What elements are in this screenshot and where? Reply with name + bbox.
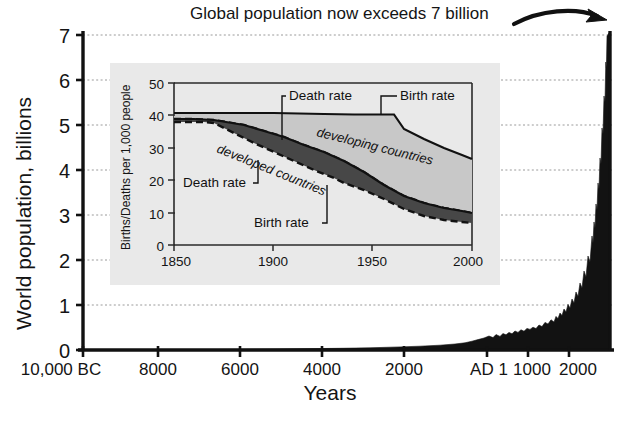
inset-panel: 50 40 30 20 10 0 1850 1900 1950 2000 Bir…: [110, 63, 500, 285]
main-xtick-label-ad1: AD 1: [470, 360, 508, 379]
main-ytick-label-1: 1: [59, 295, 70, 317]
main-ytick-label-0: 0: [59, 340, 70, 362]
inset-xtick-label-2000: 2000: [453, 254, 483, 269]
annotation-death-rate-developing-label: Death rate: [289, 88, 352, 103]
inset-xtick-label-1950: 1950: [357, 254, 387, 269]
main-ytick-label-2: 2: [59, 250, 70, 272]
inset-ytick-label-40: 40: [149, 109, 164, 124]
main-x-axis-title: Years: [304, 381, 357, 404]
main-xtick-label-4000: 4000: [303, 360, 341, 379]
inset-ytick-label-0: 0: [156, 239, 164, 254]
figure-container: 7 6 5 4 3 2 1 0 10,000 BC 8000 6000 4000…: [0, 0, 640, 431]
main-xtick-label-1000: 1000: [513, 360, 551, 379]
main-ytick-label-3: 3: [59, 205, 70, 227]
main-xtick-label-8000: 8000: [139, 360, 177, 379]
annotation-birth-rate-developed-label: Birth rate: [254, 215, 309, 230]
inset-ytick-label-30: 30: [149, 142, 164, 157]
main-xtick-label-6000: 6000: [221, 360, 259, 379]
main-ytick-label-4: 4: [59, 160, 70, 182]
annotation-birth-rate-developing-label: Birth rate: [400, 88, 455, 103]
inset-xtick-label-1850: 1850: [161, 254, 191, 269]
annotation-death-rate-developed-label: Death rate: [183, 175, 246, 190]
population-chart-svg: 7 6 5 4 3 2 1 0 10,000 BC 8000 6000 4000…: [0, 0, 640, 431]
main-ytick-label-5: 5: [59, 115, 70, 137]
inset-ytick-label-50: 50: [149, 77, 164, 92]
inset-ytick-label-10: 10: [149, 207, 164, 222]
main-xtick-label-2000ad: 2000: [559, 360, 597, 379]
inset-xtick-label-1900: 1900: [258, 254, 288, 269]
main-xtick-label-10000bc: 10,000 BC: [21, 360, 101, 379]
main-ytick-label-7: 7: [59, 25, 70, 47]
main-ytick-label-6: 6: [59, 70, 70, 92]
main-xtick-label-2000bc: 2000: [385, 360, 423, 379]
main-y-axis-title: World population, billions: [12, 97, 35, 330]
inset-y-axis-title: Births/Deaths per 1,000 people: [119, 84, 133, 250]
figure-caption: [8, 413, 632, 426]
inset-ytick-label-20: 20: [149, 174, 164, 189]
chart-title: Global population now exceeds 7 billion: [190, 4, 489, 23]
